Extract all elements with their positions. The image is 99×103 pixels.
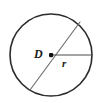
radius-label: r	[62, 58, 66, 69]
circle-diagram-canvas	[0, 0, 99, 103]
diameter-label: D	[34, 48, 43, 60]
center-point-icon	[49, 53, 53, 57]
geometry-figure: D r	[0, 0, 99, 103]
